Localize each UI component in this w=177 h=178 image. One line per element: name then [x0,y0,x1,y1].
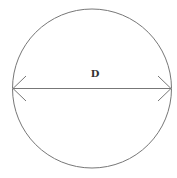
circle-diameter-diagram: D [0,0,177,178]
diameter-label: D [91,68,100,79]
